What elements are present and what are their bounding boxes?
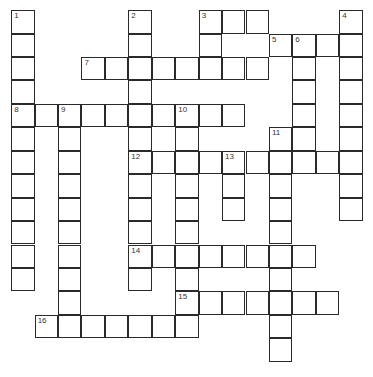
crossword-cell[interactable] — [269, 268, 292, 291]
crossword-cell[interactable] — [269, 198, 292, 221]
crossword-cell[interactable] — [292, 151, 315, 174]
crossword-cell[interactable] — [246, 245, 269, 268]
crossword-cell[interactable] — [222, 174, 245, 197]
crossword-cell[interactable] — [199, 57, 222, 80]
crossword-cell[interactable] — [58, 315, 81, 338]
crossword-cell[interactable] — [292, 127, 315, 150]
crossword-cell[interactable] — [152, 315, 175, 338]
crossword-cell[interactable] — [175, 221, 198, 244]
crossword-cell[interactable]: 2 — [128, 10, 151, 33]
crossword-cell[interactable] — [316, 34, 339, 57]
crossword-cell[interactable] — [339, 80, 362, 103]
crossword-cell[interactable] — [339, 198, 362, 221]
crossword-cell[interactable] — [105, 104, 128, 127]
crossword-cell[interactable] — [292, 80, 315, 103]
crossword-cell[interactable] — [292, 104, 315, 127]
crossword-cell[interactable]: 16 — [35, 315, 58, 338]
crossword-cell[interactable] — [339, 127, 362, 150]
crossword-cell[interactable] — [35, 104, 58, 127]
crossword-cell[interactable] — [175, 268, 198, 291]
crossword-cell[interactable] — [175, 198, 198, 221]
crossword-cell[interactable] — [199, 104, 222, 127]
crossword-cell[interactable] — [105, 57, 128, 80]
crossword-cell[interactable] — [199, 34, 222, 57]
crossword-cell[interactable] — [128, 268, 151, 291]
crossword-cell[interactable] — [152, 104, 175, 127]
crossword-cell[interactable] — [175, 127, 198, 150]
crossword-cell[interactable] — [269, 221, 292, 244]
crossword-cell[interactable] — [222, 291, 245, 314]
crossword-cell[interactable] — [222, 245, 245, 268]
crossword-cell[interactable] — [269, 291, 292, 314]
crossword-cell[interactable] — [152, 57, 175, 80]
crossword-cell[interactable] — [175, 151, 198, 174]
crossword-cell[interactable] — [175, 245, 198, 268]
crossword-cell[interactable]: 13 — [222, 151, 245, 174]
crossword-cell[interactable] — [269, 338, 292, 361]
crossword-cell[interactable] — [246, 151, 269, 174]
crossword-cell[interactable] — [58, 198, 81, 221]
crossword-cell[interactable] — [269, 315, 292, 338]
crossword-cell[interactable] — [175, 174, 198, 197]
crossword-cell[interactable] — [128, 57, 151, 80]
crossword-cell[interactable]: 10 — [175, 104, 198, 127]
crossword-cell[interactable]: 5 — [269, 34, 292, 57]
crossword-cell[interactable] — [339, 174, 362, 197]
crossword-cell[interactable] — [11, 34, 34, 57]
crossword-cell[interactable]: 6 — [292, 34, 315, 57]
crossword-cell[interactable] — [269, 151, 292, 174]
crossword-cell[interactable] — [11, 151, 34, 174]
crossword-cell[interactable] — [128, 127, 151, 150]
crossword-cell[interactable] — [105, 315, 128, 338]
crossword-cell[interactable] — [11, 127, 34, 150]
crossword-cell[interactable] — [199, 291, 222, 314]
crossword-cell[interactable] — [292, 245, 315, 268]
crossword-cell[interactable] — [58, 245, 81, 268]
crossword-cell[interactable]: 3 — [199, 10, 222, 33]
crossword-cell[interactable] — [11, 268, 34, 291]
crossword-cell[interactable] — [81, 315, 104, 338]
crossword-cell[interactable]: 1 — [11, 10, 34, 33]
crossword-cell[interactable] — [292, 291, 315, 314]
crossword-cell[interactable]: 14 — [128, 245, 151, 268]
crossword-cell[interactable] — [199, 151, 222, 174]
crossword-cell[interactable] — [246, 10, 269, 33]
crossword-cell[interactable] — [128, 221, 151, 244]
crossword-cell[interactable] — [58, 127, 81, 150]
crossword-cell[interactable] — [246, 291, 269, 314]
crossword-cell[interactable] — [128, 104, 151, 127]
crossword-cell[interactable] — [222, 198, 245, 221]
crossword-cell[interactable] — [339, 57, 362, 80]
crossword-cell[interactable] — [128, 80, 151, 103]
crossword-cell[interactable] — [339, 104, 362, 127]
crossword-cell[interactable] — [11, 198, 34, 221]
crossword-cell[interactable] — [11, 174, 34, 197]
crossword-cell[interactable] — [152, 151, 175, 174]
crossword-cell[interactable] — [339, 151, 362, 174]
crossword-cell[interactable] — [58, 174, 81, 197]
crossword-cell[interactable] — [128, 315, 151, 338]
crossword-cell[interactable] — [58, 151, 81, 174]
crossword-cell[interactable] — [199, 245, 222, 268]
crossword-cell[interactable] — [58, 291, 81, 314]
crossword-cell[interactable]: 12 — [128, 151, 151, 174]
crossword-cell[interactable]: 9 — [58, 104, 81, 127]
crossword-cell[interactable] — [58, 268, 81, 291]
crossword-cell[interactable] — [11, 57, 34, 80]
crossword-cell[interactable] — [175, 57, 198, 80]
crossword-cell[interactable]: 15 — [175, 291, 198, 314]
crossword-cell[interactable] — [339, 34, 362, 57]
crossword-cell[interactable] — [128, 34, 151, 57]
crossword-cell[interactable] — [152, 245, 175, 268]
crossword-cell[interactable] — [128, 198, 151, 221]
crossword-cell[interactable] — [316, 151, 339, 174]
crossword-cell[interactable]: 4 — [339, 10, 362, 33]
crossword-cell[interactable] — [58, 221, 81, 244]
crossword-cell[interactable] — [269, 174, 292, 197]
crossword-cell[interactable] — [222, 104, 245, 127]
crossword-cell[interactable] — [222, 57, 245, 80]
crossword-cell[interactable] — [11, 80, 34, 103]
crossword-cell[interactable]: 7 — [81, 57, 104, 80]
crossword-cell[interactable] — [175, 315, 198, 338]
crossword-cell[interactable] — [246, 57, 269, 80]
